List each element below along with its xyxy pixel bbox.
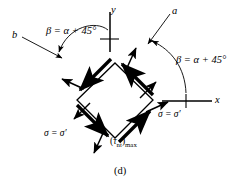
stress-element-square	[77, 63, 153, 138]
left-beta-label: β = α + 45°	[46, 26, 96, 37]
a-axis-label: a	[172, 6, 177, 17]
y-axis	[100, 12, 119, 52]
b-axis-label: b	[12, 30, 17, 41]
a-axis-line	[148, 14, 170, 44]
sigma-label-left: σ = σ′	[44, 129, 67, 139]
right-angle-arc	[152, 41, 186, 93]
b-axis-line	[22, 37, 62, 58]
normal-arrow-top	[126, 48, 136, 70]
normal-arrow-bottom	[94, 131, 104, 153]
tau-max-label: (τnt)max	[110, 137, 137, 149]
right-beta-label: β = α + 45°	[176, 55, 226, 66]
figure-caption: (d)	[114, 166, 126, 177]
sigma-label-right: σ = σ′	[158, 110, 181, 120]
stress-element-figure: β = α + 45° β = α + 45° y x a b σ = σ′ σ…	[0, 0, 250, 185]
normal-arrow-left	[62, 79, 84, 89]
y-axis-label: y	[111, 5, 116, 16]
x-axis	[162, 94, 212, 108]
x-axis-label: x	[215, 95, 220, 106]
figure-drawing	[0, 0, 250, 185]
tau-max-subscript: max	[125, 141, 137, 148]
